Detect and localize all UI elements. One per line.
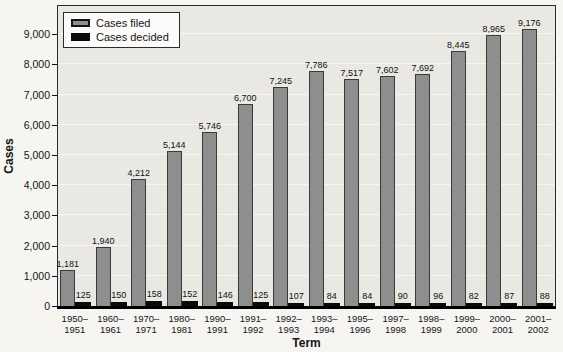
cases-filed-value-label: 8,965 <box>482 24 505 34</box>
bar-cases-filed: 7,786 <box>309 71 324 306</box>
x-tick-label-1950–1951: 1950–1951 <box>57 313 93 335</box>
bar-cases-filed: 6,700 <box>238 104 253 306</box>
x-tick-label-1998–1999: 1998–1999 <box>413 313 449 335</box>
category-group-1999–2000: 8,44582 <box>449 6 485 306</box>
legend-label-cases-filed: Cases filed <box>96 17 150 29</box>
category-group-1950–1951: 1,181125 <box>58 6 94 306</box>
y-tick-mark-1000 <box>52 276 57 277</box>
bar-cases-filed: 8,965 <box>486 35 501 306</box>
cases-filed-value-label: 1,181 <box>56 259 79 269</box>
category-group-1991–1992: 6,700125 <box>236 6 272 306</box>
y-tick-mark-8000 <box>52 64 57 65</box>
y-tick-mark-2000 <box>52 246 57 247</box>
x-tick-label-1991–1992: 1991–1992 <box>235 313 271 335</box>
cases-decided-value-label: 125 <box>76 290 91 300</box>
x-axis-labels: 1950–19511960–19611970–19711980–19811990… <box>57 313 556 335</box>
cases-decided-value-label: 84 <box>362 291 372 301</box>
cases-decided-value-label: 150 <box>111 290 126 300</box>
y-tick-mark-4000 <box>52 185 57 186</box>
x-tick-label-1997–1998: 1997–1998 <box>378 313 414 335</box>
cases-filed-value-label: 7,602 <box>376 65 399 75</box>
category-group-1993–1994: 7,78684 <box>307 6 343 306</box>
cases-decided-value-label: 107 <box>289 291 304 301</box>
bar-cases-decided: 84 <box>359 303 375 306</box>
bar-cases-decided: 84 <box>324 303 340 306</box>
bar-cases-filed: 5,144 <box>167 151 182 306</box>
y-tick-label-3000: 3,000 <box>0 209 50 221</box>
cases-filed-value-label: 8,445 <box>447 40 470 50</box>
y-tick-mark-5000 <box>52 155 57 156</box>
bar-cases-filed: 9,176 <box>522 29 537 306</box>
x-tick-label-2000–2001: 2000–2001 <box>485 313 521 335</box>
x-tick-label-1992–1993: 1992–1993 <box>271 313 307 335</box>
cases-decided-value-label: 158 <box>147 289 162 299</box>
cases-decided-value-label: 125 <box>253 290 268 300</box>
x-axis-title: Term <box>57 336 556 350</box>
bar-cases-decided: 158 <box>146 301 162 306</box>
cases-filed-value-label: 7,692 <box>411 63 434 73</box>
category-group-1980–1981: 5,144152 <box>165 6 201 306</box>
cases-filed-value-label: 7,517 <box>340 68 363 78</box>
cases-filed-value-label: 5,144 <box>163 140 186 150</box>
y-tick-label-7000: 7,000 <box>0 89 50 101</box>
bar-cases-filed: 7,692 <box>415 74 430 306</box>
bar-cases-decided: 107 <box>288 303 304 306</box>
cases-filed-value-label: 1,940 <box>92 236 115 246</box>
bar-cases-filed: 1,181 <box>60 270 75 306</box>
plot-area: 1,1811251,9401504,2121585,1441525,746146… <box>57 5 556 309</box>
bar-cases-filed: 8,445 <box>451 51 466 306</box>
cases-decided-value-label: 90 <box>398 291 408 301</box>
cases-decided-value-label: 87 <box>504 291 514 301</box>
category-group-2000–2001: 8,96587 <box>484 6 520 306</box>
category-group-1990–1991: 5,746146 <box>200 6 236 306</box>
y-tick-label-6000: 6,000 <box>0 119 50 131</box>
legend-item-cases-decided: Cases decided <box>71 31 169 43</box>
cases-filed-value-label: 5,746 <box>198 121 221 131</box>
bar-cases-filed: 5,746 <box>202 132 217 306</box>
cases-filed-value-label: 7,786 <box>305 60 328 70</box>
bars-row: 1,1811251,9401504,2121585,1441525,746146… <box>58 6 555 306</box>
bar-cases-decided: 88 <box>537 303 553 306</box>
bar-cases-filed: 7,602 <box>380 76 395 306</box>
bar-cases-decided: 146 <box>217 302 233 306</box>
cases-filed-value-label: 6,700 <box>234 93 257 103</box>
y-tick-label-2000: 2,000 <box>0 240 50 252</box>
bar-cases-decided: 125 <box>253 302 269 306</box>
category-group-1992–1993: 7,245107 <box>271 6 307 306</box>
cases-decided-value-label: 88 <box>540 291 550 301</box>
bar-cases-decided: 82 <box>466 303 482 306</box>
cases-decided-value-label: 146 <box>218 290 233 300</box>
supreme-court-caseload-bar-chart: Cases 1,1811251,9401504,2121585,1441525,… <box>0 0 563 352</box>
bar-cases-decided: 96 <box>430 303 446 306</box>
bar-cases-decided: 150 <box>111 302 127 307</box>
y-tick-label-9000: 9,000 <box>0 28 50 40</box>
legend: Cases filed Cases decided <box>63 12 180 48</box>
x-tick-label-1990–1991: 1990–1991 <box>200 313 236 335</box>
y-tick-mark-0 <box>52 306 57 307</box>
cases-filed-value-label: 4,212 <box>127 168 150 178</box>
x-tick-label-1980–1981: 1980–1981 <box>164 313 200 335</box>
bar-cases-filed: 4,212 <box>131 179 146 306</box>
cases-filed-swatch-icon <box>71 19 90 27</box>
category-group-1995–1996: 7,51784 <box>342 6 378 306</box>
y-tick-mark-9000 <box>52 34 57 35</box>
x-tick-label-1999–2000: 1999–2000 <box>449 313 485 335</box>
category-group-1960–1961: 1,940150 <box>94 6 130 306</box>
cases-decided-swatch-icon <box>71 33 90 41</box>
category-group-1997–1998: 7,60290 <box>378 6 414 306</box>
category-group-1998–1999: 7,69296 <box>413 6 449 306</box>
legend-item-cases-filed: Cases filed <box>71 17 169 29</box>
x-tick-label-1995–1996: 1995–1996 <box>342 313 378 335</box>
category-group-2001–2002: 9,17688 <box>520 6 556 306</box>
x-tick-label-2001–2002: 2001–2002 <box>520 313 556 335</box>
y-tick-mark-6000 <box>52 125 57 126</box>
legend-label-cases-decided: Cases decided <box>96 31 169 43</box>
y-tick-label-0: 0 <box>0 300 50 312</box>
bar-cases-decided: 90 <box>395 303 411 306</box>
y-tick-label-4000: 4,000 <box>0 179 50 191</box>
category-group-1970–1971: 4,212158 <box>129 6 165 306</box>
bar-cases-filed: 1,940 <box>96 247 111 306</box>
x-tick-label-1970–1971: 1970–1971 <box>128 313 164 335</box>
y-tick-mark-7000 <box>52 95 57 96</box>
x-tick-label-1993–1994: 1993–1994 <box>306 313 342 335</box>
